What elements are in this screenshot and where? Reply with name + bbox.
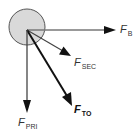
force-diagram (0, 0, 137, 134)
force-b-label: FB (120, 24, 132, 37)
force-sec-label: FSEC (74, 57, 96, 70)
force-to-label: FTO (74, 104, 91, 117)
force-pri-label: FPRI (18, 117, 37, 130)
force-to-arrow (27, 30, 72, 106)
